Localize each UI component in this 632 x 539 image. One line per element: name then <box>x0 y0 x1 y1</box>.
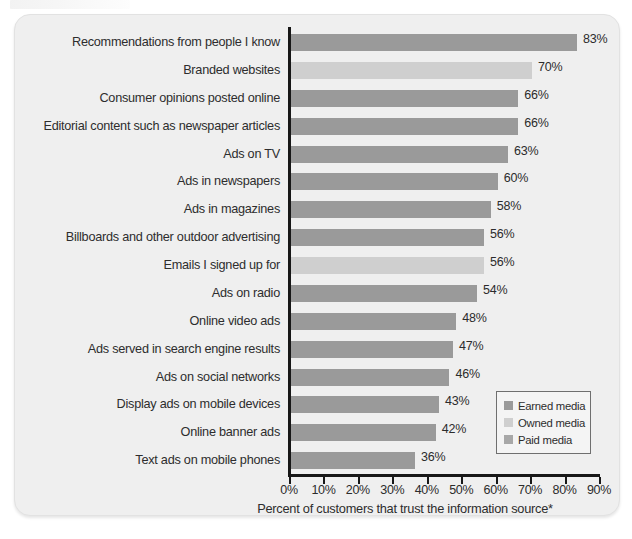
bar <box>291 285 477 302</box>
legend-label: Paid media <box>518 434 572 446</box>
legend-item-earned: Earned media <box>504 398 583 413</box>
bar-value-label: 43% <box>445 394 469 408</box>
category-label: Editorial content such as newspaper arti… <box>25 113 285 141</box>
bar-row: 58% <box>291 196 601 224</box>
bar-value-label: 58% <box>497 199 521 213</box>
bar <box>291 452 415 469</box>
bar <box>291 257 484 274</box>
legend-swatch-icon <box>504 401 513 410</box>
bar <box>291 424 436 441</box>
category-label: Ads in magazines <box>25 196 285 224</box>
bar-row: 66% <box>291 113 601 141</box>
chart-legend: Earned mediaOwned mediaPaid media <box>496 391 591 454</box>
category-label: Display ads on mobile devices <box>25 391 285 419</box>
chart-panel: Recommendations from people I knowBrande… <box>14 14 620 516</box>
category-label: Ads in newspapers <box>25 168 285 196</box>
bar-row: 70% <box>291 57 601 85</box>
bar-row: 48% <box>291 308 601 336</box>
bar <box>291 173 498 190</box>
bar-value-label: 66% <box>524 116 548 130</box>
bar-row: 60% <box>291 168 601 196</box>
bar-row: 66% <box>291 85 601 113</box>
bar <box>291 118 518 135</box>
bar-row: 47% <box>291 336 601 364</box>
legend-swatch-icon <box>504 435 513 444</box>
bar <box>291 90 518 107</box>
bar-value-label: 63% <box>514 144 538 158</box>
legend-label: Earned media <box>518 400 585 412</box>
value-axis-tick-labels: 0%10%20%30%40%50%60%70%80%90% <box>269 483 619 501</box>
bar <box>291 62 532 79</box>
bar-value-label: 42% <box>442 422 466 436</box>
bar-value-label: 47% <box>459 339 483 353</box>
bar <box>291 369 449 386</box>
bar <box>291 146 508 163</box>
category-label: Ads on radio <box>25 280 285 308</box>
category-label: Emails I signed up for <box>25 252 285 280</box>
bar-chart: Recommendations from people I knowBrande… <box>15 15 619 515</box>
bar <box>291 313 456 330</box>
bar <box>291 201 491 218</box>
legend-swatch-icon <box>504 418 513 427</box>
bar-row: 63% <box>291 141 601 169</box>
category-label: Ads on TV <box>25 141 285 169</box>
cropped-heading-fragment <box>10 0 130 9</box>
bar-row: 83% <box>291 29 601 57</box>
bar-value-label: 46% <box>455 367 479 381</box>
category-label: Text ads on mobile phones <box>25 447 285 475</box>
category-label: Branded websites <box>25 57 285 85</box>
legend-item-owned: Owned media <box>504 415 583 430</box>
bar <box>291 34 577 51</box>
bar <box>291 229 484 246</box>
category-axis-labels: Recommendations from people I knowBrande… <box>25 29 285 475</box>
category-label: Ads served in search engine results <box>25 336 285 364</box>
bar <box>291 341 453 358</box>
bar-value-label: 60% <box>504 171 528 185</box>
bar-row: 56% <box>291 252 601 280</box>
bar-value-label: 54% <box>483 283 507 297</box>
bar-row: 54% <box>291 280 601 308</box>
bar <box>291 396 439 413</box>
bar-value-label: 66% <box>524 88 548 102</box>
category-label: Billboards and other outdoor advertising <box>25 224 285 252</box>
category-label: Online banner ads <box>25 419 285 447</box>
x-axis-title: Percent of customers that trust the info… <box>195 501 615 516</box>
bar-value-label: 56% <box>490 227 514 241</box>
category-label: Consumer opinions posted online <box>25 85 285 113</box>
legend-label: Owned media <box>518 417 585 429</box>
bar-value-label: 70% <box>538 60 562 74</box>
axis-tick-label: 90% <box>579 483 619 497</box>
bar-value-label: 36% <box>421 450 445 464</box>
bar-row: 46% <box>291 364 601 392</box>
category-label: Ads on social networks <box>25 364 285 392</box>
bar-value-label: 83% <box>583 32 607 46</box>
category-label: Recommendations from people I know <box>25 29 285 57</box>
category-label: Online video ads <box>25 308 285 336</box>
bar-value-label: 48% <box>462 311 486 325</box>
bar-row: 56% <box>291 224 601 252</box>
bar-value-label: 56% <box>490 255 514 269</box>
legend-item-paid: Paid media <box>504 432 583 447</box>
